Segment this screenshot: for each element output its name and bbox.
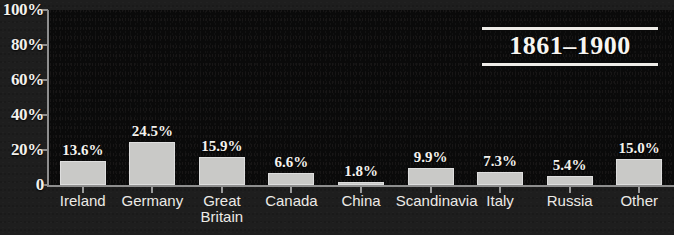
y-axis-line bbox=[47, 10, 49, 186]
bar bbox=[477, 172, 523, 185]
category-label: Other bbox=[604, 193, 674, 209]
bar-value-label: 5.4% bbox=[540, 158, 600, 173]
bar-value-label: 13.6% bbox=[53, 143, 113, 158]
bar-value-label: 7.3% bbox=[470, 154, 530, 169]
category-label: Germany bbox=[118, 193, 188, 209]
category-label: Scandinavia bbox=[396, 193, 466, 209]
y-tick-label: 0 bbox=[0, 176, 44, 193]
bar-value-label: 24.5% bbox=[122, 124, 182, 139]
bar bbox=[547, 176, 593, 185]
bar-value-label: 15.0% bbox=[609, 141, 669, 156]
bar bbox=[129, 142, 175, 185]
bar-chart: 020%40%60%80%100% 13.6%24.5%15.9%6.6%1.8… bbox=[0, 0, 674, 235]
bar-value-label: 9.9% bbox=[401, 150, 461, 165]
category-label: Italy bbox=[465, 193, 535, 209]
bar-value-label: 6.6% bbox=[261, 155, 321, 170]
bar bbox=[268, 173, 314, 185]
bar bbox=[338, 182, 384, 185]
category-label: Great Britain bbox=[187, 193, 257, 225]
bar-value-label: 15.9% bbox=[192, 139, 252, 154]
bar-value-label: 1.8% bbox=[331, 164, 391, 179]
bar bbox=[199, 157, 245, 185]
chart-title: 1861–1900 bbox=[482, 30, 658, 63]
y-tick-label: 40% bbox=[0, 106, 44, 123]
y-tick-label: 60% bbox=[0, 71, 44, 88]
title-rule-bottom bbox=[482, 63, 658, 66]
y-tick-label: 20% bbox=[0, 141, 44, 158]
bar bbox=[408, 168, 454, 185]
chart-title-block: 1861–1900 bbox=[482, 27, 658, 66]
category-label: Canada bbox=[257, 193, 327, 209]
bar bbox=[60, 161, 106, 185]
y-tick-label: 100% bbox=[0, 1, 44, 18]
y-tick-label: 80% bbox=[0, 36, 44, 53]
category-label: Russia bbox=[535, 193, 605, 209]
bar bbox=[616, 159, 662, 185]
category-label: Ireland bbox=[48, 193, 118, 209]
category-label: China bbox=[326, 193, 396, 209]
